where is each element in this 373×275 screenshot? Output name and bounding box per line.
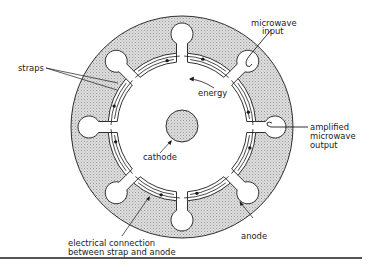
magnetron-diagram: straps microwave input energy cathode am… bbox=[0, 0, 373, 275]
connection-label-2: between strap and anode bbox=[68, 247, 176, 257]
anode-label: anode bbox=[241, 231, 267, 241]
bottom-rule bbox=[0, 257, 362, 259]
cathode bbox=[166, 110, 198, 142]
cathode-label: cathode bbox=[143, 152, 177, 162]
microwave-input-label-2: input bbox=[262, 26, 284, 36]
straps-label: straps bbox=[18, 63, 44, 73]
output-label-3: output bbox=[310, 140, 338, 150]
energy-label: energy bbox=[198, 88, 227, 98]
